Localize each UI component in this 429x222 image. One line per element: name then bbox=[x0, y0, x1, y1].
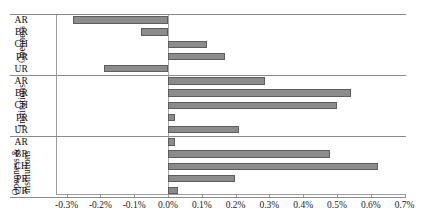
plot-area: -0.3%-0.2%-0.1%0.0%0.1%0.2%0.3%0.4%0.5%0… bbox=[0, 0, 429, 222]
bar-openness-br bbox=[141, 28, 168, 35]
chart-row: BR bbox=[0, 148, 405, 160]
x-axis-tick-label: 0.0% bbox=[158, 199, 178, 211]
bar-institutions-ar bbox=[168, 77, 265, 84]
x-axis-tick-label: 0.7% bbox=[395, 199, 415, 211]
x-axis-tick-label: 0.4% bbox=[293, 199, 313, 211]
x-axis-tick-label: 0.5% bbox=[327, 199, 347, 211]
chart-row: AR bbox=[0, 75, 405, 87]
chart-row: PR bbox=[0, 112, 405, 124]
bar-openness-ch bbox=[168, 41, 207, 48]
chart-row: CH bbox=[0, 99, 405, 111]
bar-openness-institutions-br bbox=[168, 150, 330, 157]
x-axis-tick-label: -0.2% bbox=[89, 199, 112, 211]
bar-institutions-ur bbox=[168, 126, 239, 133]
x-axis-tick-label: 0.1% bbox=[192, 199, 212, 211]
bar-openness-pr bbox=[168, 53, 225, 60]
chart-row: CH bbox=[0, 38, 405, 50]
x-axis-tick-label: 0.2% bbox=[226, 199, 246, 211]
bar-openness-ar bbox=[73, 16, 168, 23]
x-axis-tick-label: -0.1% bbox=[123, 199, 146, 211]
bar-openness-institutions-ch bbox=[168, 163, 378, 170]
chart-row: BR bbox=[0, 26, 405, 38]
chart-row: UR bbox=[0, 124, 405, 136]
group-title-openness-institutions: Openness & institutions bbox=[11, 132, 33, 212]
bar-institutions-br bbox=[168, 89, 351, 96]
group-separator-line bbox=[10, 197, 406, 198]
bar-institutions-pr bbox=[168, 114, 175, 121]
chart-row: AR bbox=[0, 14, 405, 26]
bar-openness-institutions-ar bbox=[168, 138, 175, 145]
chart-row: UR bbox=[0, 63, 405, 75]
chart-row: UR bbox=[0, 185, 405, 197]
bar-openness-institutions-ur bbox=[168, 187, 178, 194]
bar-institutions-ch bbox=[168, 102, 337, 109]
chart-row: BR bbox=[0, 87, 405, 99]
chart-row: CH bbox=[0, 160, 405, 172]
chart-row: PR bbox=[0, 51, 405, 63]
x-axis-tick-label: -0.3% bbox=[55, 199, 78, 211]
x-axis-tick-label: 0.6% bbox=[361, 199, 381, 211]
bar-openness-institutions-pr bbox=[168, 175, 235, 182]
chart-row: PR bbox=[0, 173, 405, 185]
x-axis-tick-label: 0.3% bbox=[259, 199, 279, 211]
bar-openness-ur bbox=[104, 65, 168, 72]
chart-row: AR bbox=[0, 136, 405, 148]
chart-container: -0.3%-0.2%-0.1%0.0%0.1%0.2%0.3%0.4%0.5%0… bbox=[0, 0, 429, 222]
